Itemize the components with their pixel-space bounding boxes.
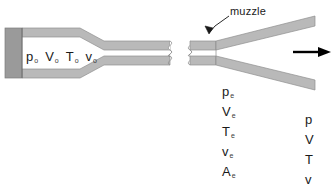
chamber-end-plate (5, 28, 22, 78)
chamber-state-labels: poVoTovo (26, 50, 104, 64)
throat-state-p: pe (222, 84, 236, 104)
nozzle-throat-lower-wall (190, 56, 216, 65)
muzzle-leader-line (205, 16, 229, 34)
muzzle-label: muzzle (230, 6, 266, 17)
throat-state-v: ve (222, 144, 236, 164)
chamber-upper-wall (22, 28, 170, 50)
flow-direction-arrow (293, 47, 331, 57)
exit-state-V: V (305, 132, 314, 152)
divergent-nozzle-upper-wall (216, 16, 315, 50)
exit-state-T: T (305, 152, 314, 172)
throat-state-T: Te (222, 124, 236, 144)
nozzle-diagram: muzzle poVoTovo pe Ve Te ve Ae p V T v A (0, 0, 333, 184)
chamber-state-T: To (66, 49, 86, 64)
chamber-state-v: vo (86, 49, 104, 64)
throat-state-V: Ve (222, 104, 236, 124)
throat-state-labels: pe Ve Te ve Ae (222, 84, 236, 184)
exit-state-labels: p V T v A (305, 112, 314, 184)
chamber-state-V: Vo (45, 49, 66, 64)
nozzle-throat-upper-wall (190, 41, 216, 50)
chamber-state-p: po (26, 49, 45, 64)
diagram-canvas (0, 0, 333, 184)
exit-state-v: v (305, 172, 314, 184)
throat-state-A: Ae (222, 164, 236, 184)
exit-state-p: p (305, 112, 314, 132)
